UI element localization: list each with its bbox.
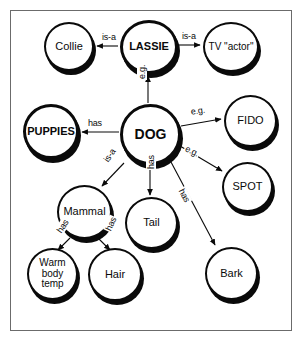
node-tail[interactable]: Tail — [125, 197, 178, 249]
edge-dog-mammal — [102, 163, 124, 186]
node-label-dog: DOG — [133, 127, 169, 142]
edge-label-dog-tail: has — [146, 154, 156, 170]
node-label-lassie: LASSIE — [127, 41, 171, 53]
node-label-hair: Hair — [103, 269, 127, 281]
node-lassie[interactable]: LASSIE — [120, 20, 178, 74]
node-label-tail: Tail — [141, 217, 162, 229]
edge-label-lassie-tvactor: is-a — [181, 31, 197, 41]
edge-label-lassie-collie: is-a — [101, 32, 117, 42]
node-label-warm: Warm body temp — [29, 258, 76, 290]
diagram-canvas: CollieLASSIETV "actor"PUPPIESDOGFIDOSPOT… — [0, 0, 304, 344]
node-collie[interactable]: Collie — [44, 22, 94, 71]
node-puppies[interactable]: PUPPIES — [23, 104, 79, 159]
edge-label-dog-lassie: e.g. — [137, 64, 147, 80]
node-bark[interactable]: Bark — [205, 247, 258, 300]
node-label-mammal: Mammal — [61, 206, 107, 218]
node-label-fido: FIDO — [235, 115, 265, 127]
node-label-collie: Collie — [53, 41, 85, 53]
edge-dog-fido — [181, 119, 221, 126]
node-warm[interactable]: Warm body temp — [27, 248, 78, 300]
node-label-spot: SPOT — [231, 181, 265, 193]
edge-label-dog-puppies: has — [87, 118, 103, 128]
node-label-tvactor: TV "actor" — [207, 42, 256, 53]
node-label-puppies: PUPPIES — [25, 126, 77, 138]
node-label-bark: Bark — [218, 268, 245, 280]
node-fido[interactable]: FIDO — [224, 95, 277, 147]
node-spot[interactable]: SPOT — [222, 162, 273, 212]
node-tvactor[interactable]: TV "actor" — [203, 22, 259, 72]
node-hair[interactable]: Hair — [88, 248, 142, 301]
